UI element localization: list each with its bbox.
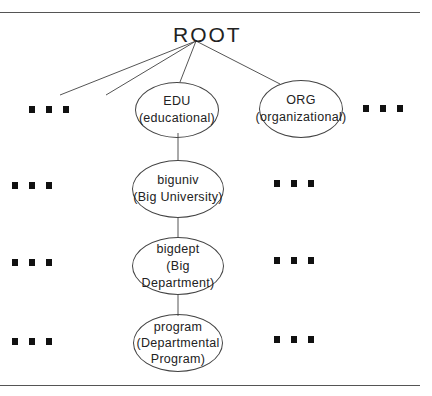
root-node-label: ROOT bbox=[173, 23, 242, 47]
node-program-desc2: Program) bbox=[151, 351, 206, 367]
ellipsis-right-row1 bbox=[363, 105, 403, 112]
node-program-desc: (Departmental bbox=[136, 335, 219, 351]
ellipsis-left-row3 bbox=[12, 259, 52, 266]
node-biguniv: biguniv (Big University) bbox=[132, 160, 224, 218]
ellipsis-left-row4 bbox=[12, 338, 52, 345]
node-org: ORG (organizational) bbox=[259, 80, 343, 138]
node-bigdept-name: bigdept bbox=[156, 241, 199, 258]
ellipsis-left-row1 bbox=[29, 106, 69, 113]
node-edu: EDU (educational) bbox=[135, 82, 219, 138]
node-org-desc: (organizational) bbox=[256, 109, 347, 126]
node-program-name: program bbox=[154, 319, 203, 335]
node-edu-name: EDU bbox=[163, 93, 190, 110]
ellipsis-right-row2 bbox=[274, 180, 314, 187]
node-edu-desc: (educational) bbox=[139, 110, 215, 127]
node-org-name: ORG bbox=[286, 92, 315, 109]
node-bigdept-desc: (Big Department) bbox=[133, 258, 223, 292]
node-bigdept: bigdept (Big Department) bbox=[132, 237, 224, 295]
node-biguniv-name: biguniv bbox=[157, 172, 199, 189]
ellipsis-right-row4 bbox=[274, 336, 314, 343]
node-program: program (Departmental Program) bbox=[133, 314, 223, 372]
ellipsis-left-row2 bbox=[12, 182, 52, 189]
node-biguniv-desc: (Big University) bbox=[133, 189, 223, 206]
ellipsis-right-row3 bbox=[274, 257, 314, 264]
